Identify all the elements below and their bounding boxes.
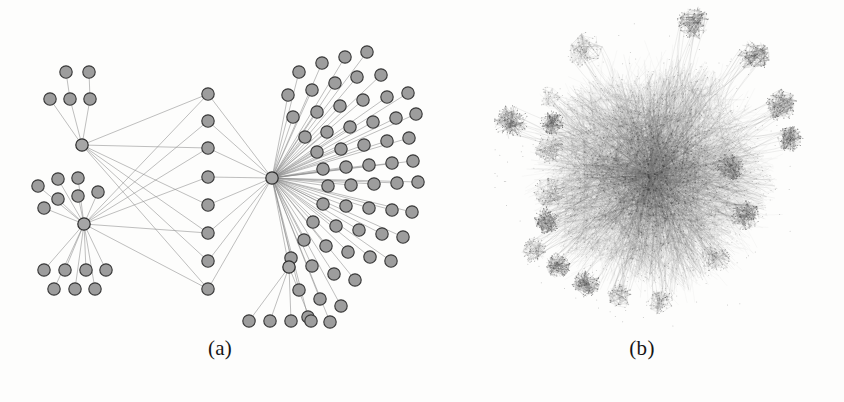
hairball-node (646, 277, 647, 278)
hairball-node (703, 203, 704, 204)
cluster-node (690, 9, 691, 10)
cluster-node (567, 271, 568, 272)
hairball-node (740, 146, 741, 147)
hairball-node (746, 160, 747, 161)
cluster-node (528, 241, 529, 242)
hairball-node (710, 164, 711, 165)
hairball-node (637, 151, 639, 153)
hairball-node (583, 164, 584, 165)
hairball-node (693, 224, 694, 225)
hairball-node (620, 151, 622, 153)
stray-node (775, 145, 776, 146)
hairball-node (553, 132, 554, 133)
hairball-node (728, 123, 729, 124)
hairball-node (655, 99, 656, 100)
graph-node (314, 293, 326, 305)
hairball-node (699, 176, 700, 177)
stray-node (541, 282, 542, 283)
hairball-node (657, 212, 659, 214)
hairball-node (703, 183, 704, 184)
cluster-node (769, 103, 770, 104)
hairball-node (684, 202, 685, 203)
hairball-node (641, 85, 642, 86)
hairball-node (611, 84, 612, 85)
cluster-node (687, 37, 688, 38)
graph-hub-node (266, 172, 278, 184)
cluster-node (740, 63, 741, 64)
cluster-node (579, 280, 580, 281)
graph-node (44, 93, 56, 105)
hairball-node (663, 227, 664, 228)
cluster-node (535, 248, 536, 249)
hairball-node (585, 247, 586, 248)
hairball-node (690, 141, 691, 142)
hairball-node (647, 171, 649, 173)
hairball-node (634, 81, 635, 82)
hairball-node (637, 250, 638, 251)
hairball-node (676, 268, 677, 269)
cluster-node (578, 285, 579, 286)
cluster-node (753, 44, 754, 45)
hairball-node (673, 293, 674, 294)
stray-node (527, 264, 528, 265)
hairball-node (648, 200, 650, 202)
graph-edge (82, 145, 208, 148)
hairball-node (679, 224, 680, 225)
hairball-node (690, 214, 691, 215)
hairball-node (594, 226, 595, 227)
hairball-node (562, 178, 563, 179)
graph-edge (208, 178, 272, 205)
hairball-node (692, 125, 693, 126)
hairball-node (553, 174, 554, 175)
hairball-node (631, 111, 632, 112)
hairball-node (724, 176, 725, 177)
hairball-node (701, 199, 702, 200)
hairball-node (763, 155, 764, 156)
graph-node (334, 100, 346, 112)
hairball-node (758, 161, 759, 162)
stray-node (610, 311, 611, 312)
hairball-node (642, 260, 643, 261)
hairball-node (612, 94, 613, 95)
hairball-node (688, 141, 689, 142)
hairball-node (592, 191, 593, 192)
hairball-node (652, 226, 653, 227)
graph-node (293, 284, 305, 296)
hairball-node (677, 121, 678, 122)
hairball-node (741, 206, 742, 207)
hairball-node (628, 235, 629, 236)
hairball-node (642, 187, 644, 189)
hairball-node (561, 121, 562, 122)
hairball-node (699, 79, 700, 80)
graph-node (386, 204, 398, 216)
graph-edge (249, 267, 289, 321)
cluster-node (689, 37, 690, 38)
graph-hub-node (283, 261, 295, 273)
graph-node (335, 300, 347, 312)
cluster-node (739, 49, 740, 50)
graph-edge (65, 224, 84, 270)
hairball-node (743, 175, 744, 176)
graph-node (363, 159, 375, 171)
stray-node (648, 71, 649, 72)
hairball-node (592, 171, 593, 172)
hairball-node (654, 273, 655, 274)
hairball-node (594, 163, 595, 164)
graph-node (339, 51, 351, 63)
cluster-node (548, 260, 549, 261)
hairball-node (667, 188, 669, 190)
cluster-node (567, 265, 568, 266)
hairball-node (752, 181, 753, 182)
stray-node (592, 272, 593, 273)
hairball-node (631, 100, 632, 101)
hairball-node (672, 295, 673, 296)
hairball-node (711, 128, 712, 129)
stray-node (755, 251, 756, 252)
hairball-node (639, 90, 640, 91)
hairball-node (675, 113, 676, 114)
hairball-node (674, 86, 675, 87)
hairball-node (710, 140, 711, 141)
graph-node (381, 135, 393, 147)
hairball-node (662, 288, 663, 289)
hairball-node (590, 247, 591, 248)
